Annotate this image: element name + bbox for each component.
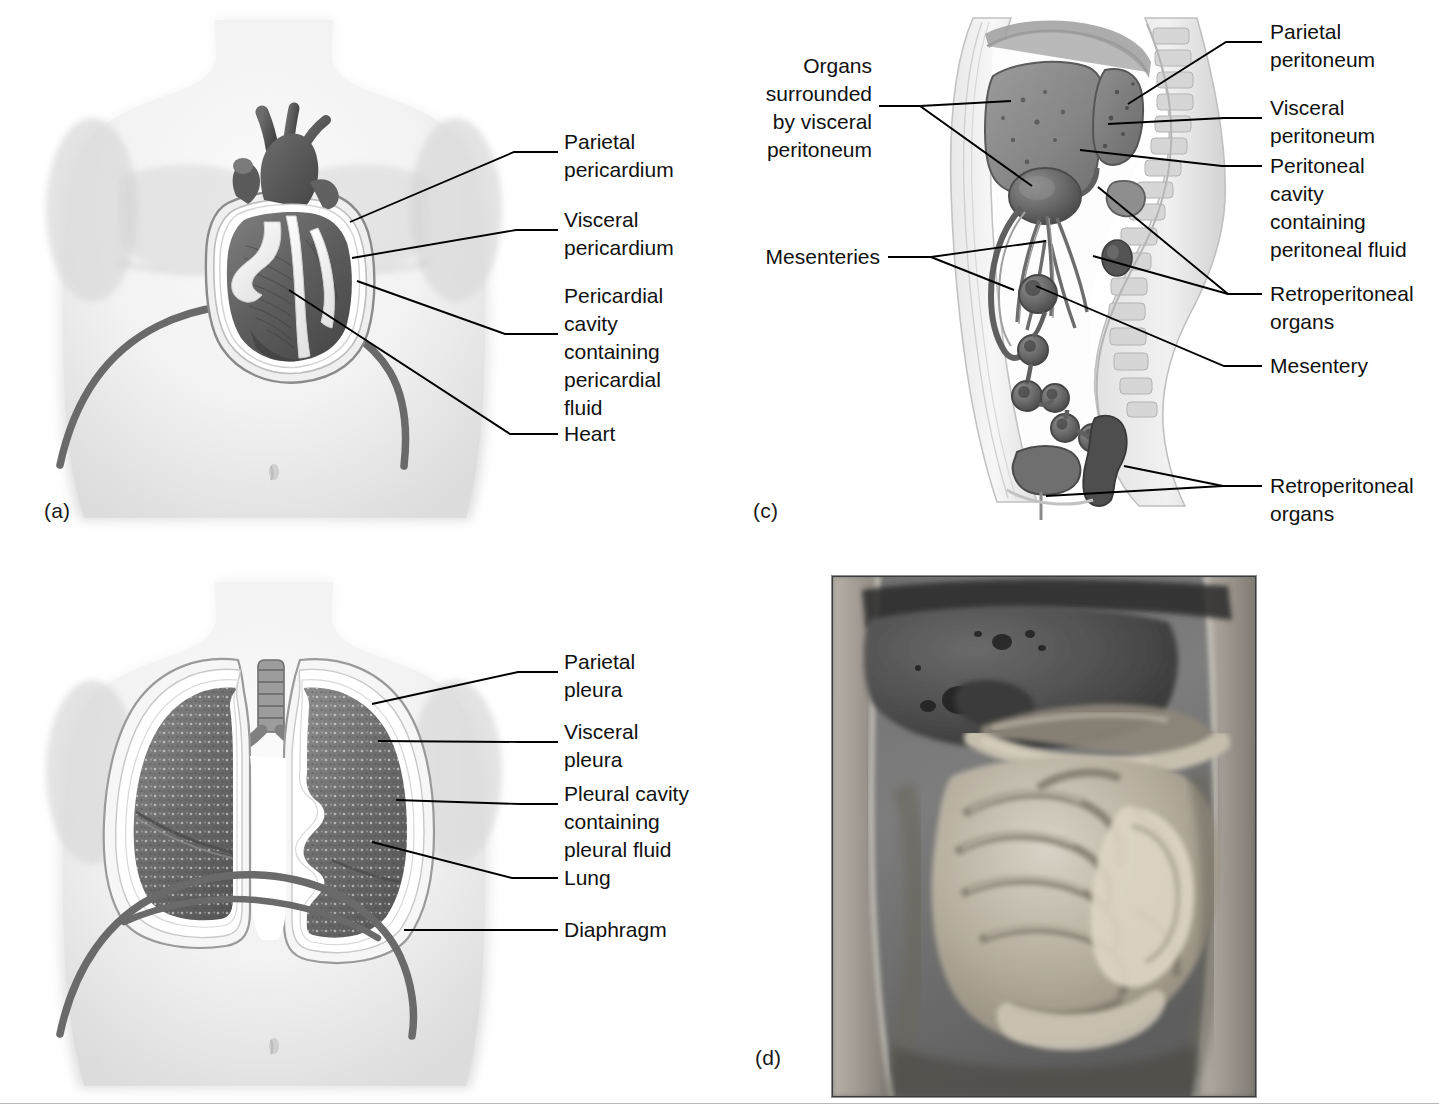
photo-grain bbox=[832, 576, 1256, 1097]
label-diaphragm: Diaphragm bbox=[564, 916, 667, 944]
transverse-colon-highlight bbox=[1019, 176, 1055, 200]
label-parietal-pericardium: Parietal pericardium bbox=[564, 128, 674, 184]
mediastinum bbox=[250, 756, 286, 940]
navel-shadow-b bbox=[271, 1040, 273, 1054]
pancreas-retroperitoneal bbox=[1107, 181, 1145, 216]
anatomy-figure: (a) bbox=[0, 0, 1439, 1115]
panel-b-illustration bbox=[0, 560, 540, 1115]
figure-footer-rule bbox=[0, 1103, 1439, 1104]
label-retroperitoneal-organs-lower: Retroperitoneal organs bbox=[1270, 472, 1414, 528]
abdominal-cavity-photograph bbox=[832, 576, 1256, 1097]
label-pleural-cavity: Pleural cavity containing pleural fluid bbox=[564, 780, 689, 864]
label-visceral-pericardium: Visceral pericardium bbox=[564, 206, 674, 262]
panel-a: (a) bbox=[0, 0, 540, 540]
label-visceral-peritoneum: Visceral peritoneum bbox=[1270, 94, 1375, 150]
panel-a-illustration bbox=[0, 0, 540, 540]
label-retroperitoneal-organs-upper: Retroperitoneal organs bbox=[1270, 280, 1414, 336]
label-peritoneal-cavity: Peritoneal cavity containing peritoneal … bbox=[1270, 152, 1407, 264]
label-heart: Heart bbox=[564, 420, 615, 448]
label-pericardial-cavity: Pericardial cavity containing pericardia… bbox=[564, 282, 663, 422]
label-mesenteries: Mesenteries bbox=[700, 243, 880, 271]
label-parietal-pleura: Parietal pleura bbox=[564, 648, 635, 704]
kidney-retroperitoneal bbox=[1102, 240, 1132, 276]
label-mesentery: Mesentery bbox=[1270, 352, 1368, 380]
stomach bbox=[1093, 69, 1143, 165]
label-parietal-peritoneum: Parietal peritoneum bbox=[1270, 18, 1375, 74]
panel-letter-a: (a) bbox=[44, 499, 70, 523]
panel-b: (b) bbox=[0, 560, 540, 1115]
bladder bbox=[1013, 446, 1081, 495]
label-visceral-pleura: Visceral pleura bbox=[564, 718, 638, 774]
panel-letter-c: (c) bbox=[753, 499, 778, 523]
panel-d-photo bbox=[831, 575, 1257, 1098]
kidney-highlight bbox=[1107, 245, 1119, 259]
label-lung: Lung bbox=[564, 864, 611, 892]
label-organs-visceral-peritoneum: Organs surrounded by visceral peritoneum bbox=[700, 52, 872, 164]
navel-shadow bbox=[271, 466, 273, 480]
panel-letter-d: (d) bbox=[755, 1046, 781, 1070]
